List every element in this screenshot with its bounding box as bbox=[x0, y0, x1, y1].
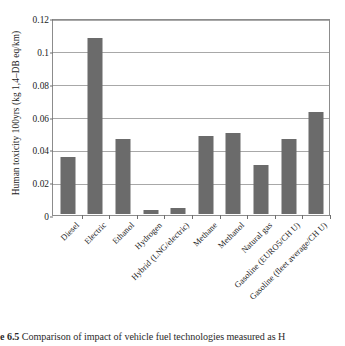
bar[interactable] bbox=[60, 157, 75, 214]
bar[interactable] bbox=[115, 139, 130, 214]
x-axis-label: Diesel bbox=[58, 220, 81, 243]
y-axis-tick-label: 0.12 bbox=[33, 15, 49, 25]
y-axis-tick-mark bbox=[50, 52, 53, 53]
y-axis-tick-mark bbox=[50, 118, 53, 119]
y-axis-tick-mark bbox=[50, 20, 53, 21]
y-axis-tick-label: 0 bbox=[44, 212, 49, 222]
bar[interactable] bbox=[253, 165, 268, 214]
y-axis-tick-label: 0.04 bbox=[33, 146, 49, 156]
bar[interactable] bbox=[143, 210, 158, 214]
figure-container: Human toxicity 100yrs (kg 1,4–DB eq/km) … bbox=[0, 0, 345, 346]
bar-slot bbox=[192, 20, 220, 214]
x-axis-label: Ethanol bbox=[110, 220, 136, 246]
bar-slot bbox=[54, 20, 82, 214]
bar-slot bbox=[275, 20, 303, 214]
y-axis-tick-label: 0.08 bbox=[33, 81, 49, 91]
bar-slot bbox=[137, 20, 165, 214]
x-axis-tick-mark bbox=[330, 215, 331, 219]
caption-number: e 6.5 bbox=[0, 331, 19, 342]
bar-slot bbox=[247, 20, 275, 214]
bar-slot bbox=[302, 20, 330, 214]
y-axis-title: Human toxicity 100yrs (kg 1,4–DB eq/km) bbox=[11, 13, 21, 213]
bar[interactable] bbox=[88, 38, 103, 214]
y-axis-tick-label: 0.02 bbox=[33, 179, 49, 189]
x-axis-label: Methane bbox=[191, 220, 219, 248]
y-axis-tick-mark bbox=[50, 85, 53, 86]
y-axis-tick-mark bbox=[50, 151, 53, 152]
bars-group bbox=[54, 20, 328, 214]
x-axis-label: Electric bbox=[82, 220, 108, 246]
bar[interactable] bbox=[171, 208, 186, 214]
bar[interactable] bbox=[226, 133, 241, 214]
y-axis-tick-label: 0.06 bbox=[33, 114, 49, 124]
bar[interactable] bbox=[281, 139, 296, 214]
caption-text: Comparison of impact of vehicle fuel tec… bbox=[22, 331, 285, 342]
bar-slot bbox=[164, 20, 192, 214]
figure-caption: e 6.5 Comparison of impact of vehicle fu… bbox=[0, 331, 345, 342]
y-axis-tick-label: 0.1 bbox=[37, 48, 49, 58]
plot-area: 00.020.040.060.080.10.12 bbox=[52, 19, 330, 216]
x-axis-labels-group: DieselElectricEthanolHydrogenHybrid (LNG… bbox=[52, 217, 330, 317]
bar-slot bbox=[109, 20, 137, 214]
bar-slot bbox=[82, 20, 110, 214]
bar[interactable] bbox=[309, 112, 324, 214]
y-axis-tick-mark bbox=[50, 184, 53, 185]
bar-slot bbox=[220, 20, 248, 214]
bar[interactable] bbox=[198, 136, 213, 214]
